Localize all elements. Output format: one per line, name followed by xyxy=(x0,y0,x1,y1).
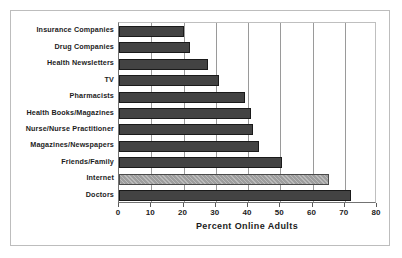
x-tick-20 xyxy=(183,203,184,207)
category-label-nurse-nurse-practitioner: Nurse/Nurse Practitioner xyxy=(0,125,114,133)
category-label-doctors: Doctors xyxy=(0,191,114,199)
x-tick-50 xyxy=(279,203,280,207)
category-label-pharmacists: Pharmacists xyxy=(0,92,114,100)
category-label-health-newsletters: Health Newsletters xyxy=(0,59,114,67)
x-tick-70 xyxy=(344,203,345,207)
category-label-health-books-magazines: Health Books/Magazines xyxy=(0,109,114,117)
category-label-insurance-companies: Insurance Companies xyxy=(0,26,114,34)
chart-figure: Insurance CompaniesDrug CompaniesHealth … xyxy=(0,0,402,258)
category-label-internet: Internet xyxy=(0,174,114,182)
x-tick-30 xyxy=(215,203,216,207)
category-label-friends-family: Friends/Family xyxy=(0,158,114,166)
x-tick-60 xyxy=(312,203,313,207)
x-tick-0 xyxy=(118,203,119,207)
x-axis-title: Percent Online Adults xyxy=(118,221,376,231)
x-tick-40 xyxy=(247,203,248,207)
category-label-drug-companies: Drug Companies xyxy=(0,43,114,51)
x-tick-80 xyxy=(376,203,377,207)
x-tick-10 xyxy=(150,203,151,207)
category-axis-labels: Insurance CompaniesDrug CompaniesHealth … xyxy=(0,22,402,203)
category-label-magazines-newspapers: Magazines/Newspapers xyxy=(0,141,114,149)
category-label-tv: TV xyxy=(0,76,114,84)
x-tick-label-80: 80 xyxy=(356,208,396,218)
